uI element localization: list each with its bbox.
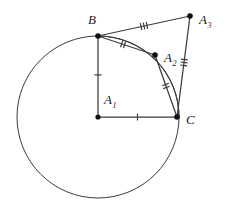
tick-mark (143, 23, 144, 30)
tick-mark (140, 23, 141, 30)
label-A3: A3 (198, 12, 211, 30)
point-A2 (152, 52, 158, 58)
tick-mark (181, 62, 188, 63)
tick-group-B-A3 (140, 22, 147, 30)
label-A1: A1 (103, 92, 116, 110)
tick-mark (180, 65, 187, 66)
label-C: C (186, 112, 195, 127)
point-A3 (187, 13, 193, 19)
tick-mark (181, 59, 188, 60)
point-A1 (95, 114, 100, 119)
point-C (174, 114, 180, 120)
diagram-canvas: A1BA2A3C (0, 0, 225, 211)
tick-mark (146, 22, 147, 29)
geometry-diagram: A1BA2A3C (0, 0, 225, 211)
label-B: B (88, 12, 96, 27)
point-B (95, 33, 101, 39)
label-A2: A2 (163, 50, 176, 68)
segment-A3-C (177, 16, 190, 117)
segment-B-A2 (98, 36, 155, 55)
